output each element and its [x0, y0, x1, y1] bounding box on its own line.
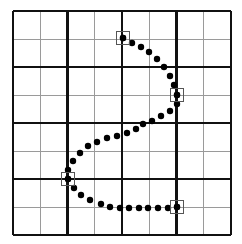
figure-canvas — [0, 0, 242, 244]
curve-dot-11 — [158, 113, 164, 119]
curve-dot-20 — [77, 150, 83, 156]
curve-dot-30 — [126, 205, 132, 211]
curve-dot-25 — [78, 192, 84, 198]
curve-dot-10 — [167, 108, 173, 114]
curve-dot-12 — [149, 118, 155, 124]
curve-dot-32 — [145, 205, 151, 211]
curve-dot-13 — [140, 121, 146, 127]
control-dot-3[interactable] — [174, 204, 180, 210]
curve-dot-33 — [155, 205, 161, 211]
curve-dot-18 — [94, 139, 100, 145]
curve-dot-31 — [136, 205, 142, 211]
control-dot-2[interactable] — [65, 176, 71, 182]
curve-dot-16 — [114, 133, 120, 139]
curve-dot-2 — [138, 44, 144, 50]
curve-dot-27 — [98, 201, 104, 207]
curve-dot-28 — [107, 204, 113, 210]
curve-dot-3 — [146, 49, 152, 55]
curve-dot-6 — [167, 73, 173, 79]
scatter-plot-svg — [0, 0, 242, 244]
curve-dot-4 — [154, 56, 160, 62]
curve-dot-29 — [117, 205, 123, 211]
curve-dot-26 — [87, 197, 93, 203]
curve-dot-5 — [161, 64, 167, 70]
control-dot-1[interactable] — [174, 92, 180, 98]
control-dot-0[interactable] — [120, 35, 126, 41]
curve-dot-21 — [70, 158, 76, 164]
curve-dot-19 — [85, 143, 91, 149]
curve-dot-14 — [133, 126, 139, 132]
curve-dot-17 — [104, 135, 110, 141]
curve-dot-15 — [124, 130, 130, 136]
curve-dot-7 — [171, 82, 177, 88]
